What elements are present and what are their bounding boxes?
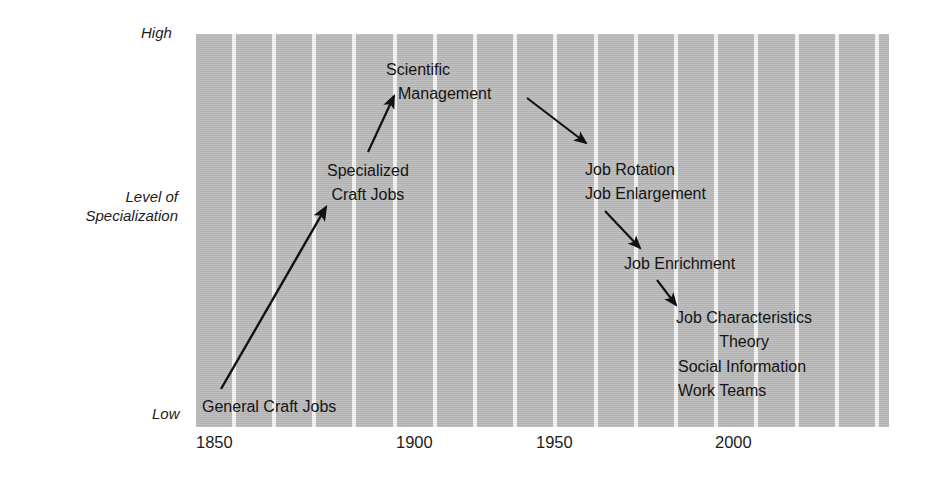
x-tick-1900: 1900: [396, 433, 433, 452]
gridline: [553, 34, 557, 427]
annotation-line: Craft Jobs: [327, 183, 409, 207]
specialization-timeline-chart: High Level of Specialization Low 1850 19…: [0, 0, 926, 481]
annotation-line: Management: [398, 82, 491, 106]
annotation-line: Theory: [676, 330, 812, 354]
gridline: [513, 34, 517, 427]
gridline: [875, 34, 879, 427]
annotation-line: Work Teams: [678, 379, 812, 403]
x-tick-1950: 1950: [536, 433, 573, 452]
annotation-line: Scientific: [386, 58, 491, 82]
annotation-modern-approaches: Job Characteristics Theory Social Inform…: [676, 306, 812, 403]
y-axis-high-label: High: [141, 24, 172, 43]
annotation-job-rotation-enlargement: Job Rotation Job Enlargement: [585, 158, 706, 207]
gridline: [312, 34, 316, 427]
gridline: [835, 34, 839, 427]
annotation-line: Job Characteristics: [676, 306, 812, 330]
gridline: [272, 34, 276, 427]
gridline: [232, 34, 236, 427]
y-axis-title-line1: Level of: [0, 188, 178, 207]
x-tick-1850: 1850: [196, 433, 233, 452]
annotation-line: Specialized: [327, 159, 409, 183]
y-axis-title-line2: Specialization: [0, 207, 178, 226]
gridline: [352, 34, 356, 427]
annotation-specialized-craft-jobs: Specialized Craft Jobs: [327, 159, 409, 208]
gridline: [634, 34, 638, 427]
x-tick-2000: 2000: [715, 433, 752, 452]
annotation-line: Job Rotation: [585, 158, 706, 182]
annotation-line: Job Enlargement: [585, 182, 706, 206]
annotation-line: Social Information: [678, 355, 812, 379]
gridline: [594, 34, 598, 427]
annotation-scientific-management: Scientific Management: [386, 58, 491, 107]
annotation-general-craft-jobs: General Craft Jobs: [202, 395, 336, 419]
y-axis-title: Level of Specialization: [0, 188, 186, 226]
annotation-job-enrichment: Job Enrichment: [624, 252, 735, 276]
y-axis-low-label: Low: [152, 405, 180, 424]
